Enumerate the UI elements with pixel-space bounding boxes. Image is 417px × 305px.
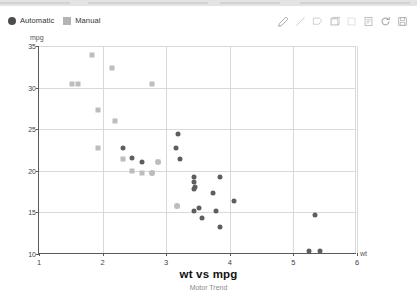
data-point[interactable] [192,187,197,192]
data-point[interactable] [130,156,135,161]
pencil-icon[interactable] [277,15,289,27]
legend-marker-square-icon [63,17,71,25]
x-tick-label: 1 [37,258,41,267]
x-tick-mark [103,253,104,256]
y-tick-label: 15 [28,209,36,216]
y-tick-label: 35 [28,43,36,50]
x-tick-mark [293,253,294,256]
y-tick-mark [36,88,39,89]
polygon-icon[interactable] [311,15,323,27]
x-tick-label: 2 [101,258,105,267]
gridline-horizontal [39,129,356,130]
gridline-vertical [103,46,104,253]
data-point[interactable] [192,175,197,180]
data-point[interactable] [200,216,205,221]
refresh-icon[interactable] [379,15,391,27]
chart-legend: AutomaticManual [8,16,100,25]
y-tick-mark [36,129,39,130]
data-point[interactable] [175,203,180,208]
x-tick-label: 3 [164,258,168,267]
data-point[interactable] [313,212,318,217]
y-axis-label: mpg [30,34,44,41]
data-point[interactable] [149,171,154,176]
x-tick-label: 4 [228,258,232,267]
y-tick-label: 20 [28,167,36,174]
data-point[interactable] [109,65,114,70]
data-point[interactable] [217,224,222,229]
data-point[interactable] [113,118,118,123]
y-tick-mark [36,46,39,47]
x-tick-mark [39,253,40,256]
data-point[interactable] [96,145,101,150]
x-tick-mark [166,253,167,256]
data-point[interactable] [140,171,145,176]
data-point[interactable] [120,145,125,150]
y-tick-mark [36,171,39,172]
data-point[interactable] [213,208,218,213]
legend-item-manual[interactable]: Manual [63,16,100,25]
data-point[interactable] [217,175,222,180]
x-tick-label: 5 [291,258,295,267]
data-point[interactable] [76,82,81,87]
square-icon[interactable] [345,15,357,27]
data-point[interactable] [150,82,155,87]
x-tick-mark [357,253,358,256]
plot-wrapper: mpg wt 123456101520253035 wt vs mpg Moto… [0,34,417,305]
data-point[interactable] [156,160,161,165]
legend-label: Manual [75,16,100,25]
x-tick-label: 6 [355,258,359,267]
data-point[interactable] [307,248,312,253]
save-icon[interactable] [396,15,408,27]
legend-label: Automatic [20,16,54,25]
gridline-vertical [230,46,231,253]
plot-right-border [355,46,356,253]
rectangle-icon[interactable] [328,15,340,27]
y-tick-label: 30 [28,84,36,91]
data-point[interactable] [130,168,135,173]
y-tick-label: 25 [28,126,36,133]
y-tick-mark [36,254,39,255]
gridline-vertical [357,46,358,253]
legend-item-automatic[interactable]: Automatic [8,16,54,25]
y-tick-mark [36,212,39,213]
data-point[interactable] [177,157,182,162]
plot-area[interactable]: 123456101520253035 [38,46,356,254]
gridline-vertical [166,46,167,253]
gridline-horizontal [39,88,356,89]
data-point[interactable] [176,132,181,137]
gridline-horizontal [39,171,356,172]
data-point[interactable] [96,108,101,113]
window-title-bar [0,0,417,6]
data-point[interactable] [140,160,145,165]
chart-title: wt vs mpg [0,268,417,280]
data-point[interactable] [210,191,215,196]
x-axis-label: wt [360,250,367,257]
data-point[interactable] [197,206,202,211]
gridline-horizontal [39,212,356,213]
note-icon[interactable] [362,15,374,27]
line-icon[interactable] [294,15,306,27]
data-point[interactable] [173,145,178,150]
data-point[interactable] [318,248,323,253]
data-point[interactable] [90,53,95,58]
data-point[interactable] [191,208,196,213]
x-tick-mark [230,253,231,256]
gridline-horizontal [39,46,356,47]
chart-subtitle: Motor Trend [0,284,417,291]
gridline-vertical [293,46,294,253]
data-point[interactable] [120,157,125,162]
y-tick-label: 10 [28,251,36,258]
legend-marker-circle-icon [8,17,16,25]
chart-toolbar[interactable] [277,15,408,27]
data-point[interactable] [232,198,237,203]
data-point[interactable] [69,82,74,87]
